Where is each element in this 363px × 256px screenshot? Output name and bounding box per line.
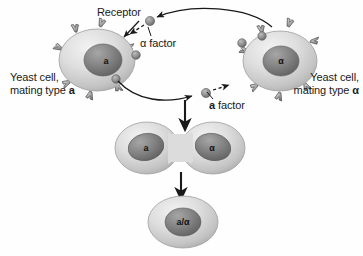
bound-ligand-alpha-cell-1 [258, 32, 266, 40]
receptor-label: Receptor [97, 6, 141, 19]
right-cell-caption-line2-prefix: mating type [294, 84, 353, 96]
alpha-factor-callout-leader [148, 27, 151, 36]
fused-nucleus-label-alpha: α [209, 143, 215, 153]
a-factor-molecule [201, 88, 210, 97]
left-cell-caption-line1: Yeast cell, [10, 71, 59, 83]
zygote-nucleus-label: a/α [176, 217, 189, 227]
alpha-factor-label: α factor [140, 37, 176, 50]
fused-nucleus-label-a: a [143, 143, 148, 153]
alpha-factor-molecule [145, 16, 154, 25]
nucleus-label-alpha: α [278, 56, 284, 66]
a-factor-signal-path [118, 81, 229, 100]
right-cell-caption-type: α [352, 84, 359, 96]
alpha-factor-molecule-free [132, 51, 141, 60]
right-cell-caption: Yeast cell, mating type α [294, 71, 359, 96]
left-cell-caption-type: a [69, 84, 75, 96]
a-factor-label-suffix: factor [215, 99, 245, 111]
nucleus-label-a: a [103, 56, 108, 66]
left-cell-caption-line2-prefix: mating type [10, 84, 69, 96]
fused-cell [115, 110, 248, 174]
a-factor-label: a factor [209, 99, 245, 112]
yeast-mating-diagram: Receptor α factor a factor Yeast cell, m… [0, 0, 363, 256]
right-cell-caption-line1: Yeast cell, [310, 71, 359, 83]
alpha-factor-molecule-near-alpha-cell [238, 39, 247, 48]
left-cell-caption: Yeast cell, mating type a [10, 71, 75, 96]
